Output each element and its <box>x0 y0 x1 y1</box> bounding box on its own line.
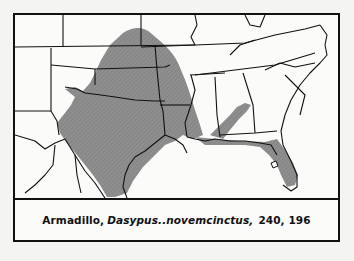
range-area <box>57 28 298 197</box>
page-references: 240, 196 <box>258 214 310 226</box>
florida-lake <box>271 161 278 168</box>
map-caption: Armadillo, Dasypus..novemcinctus, 240, 1… <box>15 200 338 240</box>
range-map <box>15 15 338 200</box>
map-svg <box>15 15 338 198</box>
scientific-name: Dasypus..novemcinctus, <box>107 214 253 226</box>
common-name: Armadillo, <box>42 214 104 226</box>
figure-frame: Armadillo, Dasypus..novemcinctus, 240, 1… <box>13 13 340 242</box>
